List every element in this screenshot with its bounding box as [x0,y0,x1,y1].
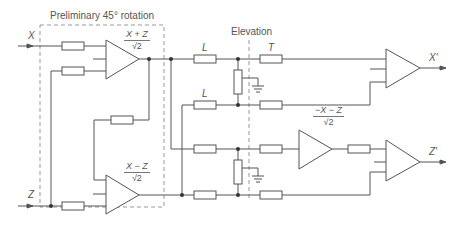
output-z-label: Z′ [429,146,437,157]
circuit-diagram: Preliminary 45° rotation Elevation X Z X… [0,0,454,244]
input-x-label: X [28,30,35,41]
elevation-label: Elevation [231,26,272,37]
output-x-label: X′ [429,52,438,63]
resistor-l-mid-label: L [202,88,208,99]
amp2-expression: X − Z √2 [124,161,150,184]
input-z-label: Z [28,189,34,200]
resistor-t-label: T [268,42,274,53]
section-title: Preliminary 45° rotation [50,10,154,21]
amp3-expression: −X − Z √2 [313,105,344,128]
resistor-l-top-label: L [202,42,208,53]
circuit-schematic [0,0,454,244]
amp1-expression: X + Z √2 [124,29,150,52]
